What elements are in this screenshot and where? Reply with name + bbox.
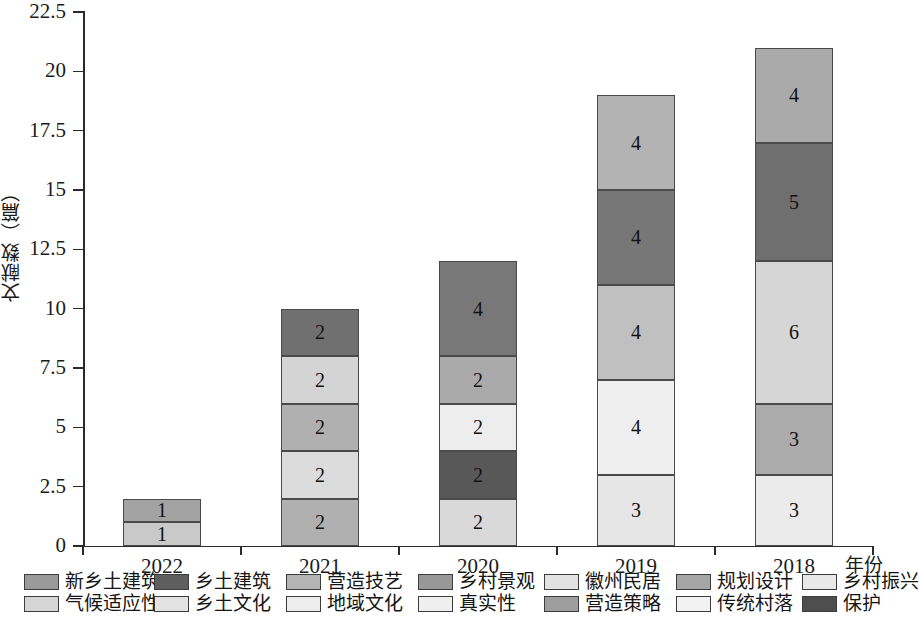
bar-stack-2019[interactable]: 34444 [597,12,675,546]
legend-label: 新乡土建筑 [65,572,160,591]
legend-label: 真实性 [459,594,516,613]
y-axis-tick-label: 12.5 [0,238,66,259]
bar-segment[interactable]: 1 [123,522,201,546]
y-axis-tick-label: 20 [0,60,66,81]
bar-segment[interactable]: 2 [439,356,517,403]
bar-segment-value-label: 2 [473,370,483,390]
y-axis-tick-mark [73,367,83,368]
legend-swatch [802,574,837,590]
legend-item-地域文化[interactable]: 地域文化 [286,593,403,614]
legend-label: 保护 [843,594,881,613]
bar-segment[interactable]: 5 [755,143,833,262]
legend-item-营造技艺[interactable]: 营造技艺 [286,571,403,592]
legend-item-乡土文化[interactable]: 乡土文化 [154,593,271,614]
legend-swatch [418,596,453,612]
bar-segment[interactable]: 4 [597,380,675,475]
bar-segment-value-label: 4 [473,299,483,319]
bar-segment-value-label: 2 [315,370,325,390]
bar-segment-value-label: 3 [789,500,799,520]
y-axis-tick-label: 10 [0,298,66,319]
x-axis-tick-mark [714,546,715,555]
bar-segment-value-label: 2 [473,465,483,485]
legend-item-徽州民居[interactable]: 徽州民居 [544,571,661,592]
y-axis-tick-mark [73,427,83,428]
legend-swatch [802,596,837,612]
x-axis-tick-mark [240,546,241,555]
legend-label: 乡村景观 [459,572,535,591]
legend-row: 新乡土建筑乡土建筑营造技艺乡村景观徽州民居规划设计乡村振兴 [24,571,894,592]
chart-legend: 新乡土建筑乡土建筑营造技艺乡村景观徽州民居规划设计乡村振兴气候适应性乡土文化地域… [24,571,894,615]
bar-segment[interactable]: 2 [281,451,359,498]
bar-segment[interactable]: 4 [597,190,675,285]
y-axis-tick-mark [73,308,83,309]
legend-label: 规划设计 [717,572,793,591]
legend-label: 传统村落 [717,594,793,613]
bar-segment[interactable]: 2 [281,499,359,546]
bar-stack-2018[interactable]: 33654 [755,12,833,546]
legend-swatch [544,574,579,590]
bar-segment-value-label: 2 [315,417,325,437]
x-axis-tick-mark [872,546,873,555]
bar-segment[interactable]: 4 [439,261,517,356]
legend-item-乡土建筑[interactable]: 乡土建筑 [154,571,271,592]
bar-segment-value-label: 5 [789,192,799,212]
legend-item-新乡土建筑[interactable]: 新乡土建筑 [24,571,160,592]
legend-label: 徽州民居 [585,572,661,591]
legend-label: 营造技艺 [327,572,403,591]
x-axis-tick-mark [398,546,399,555]
legend-item-气候适应性[interactable]: 气候适应性 [24,593,160,614]
y-axis-tick-mark [73,130,83,131]
bar-segment-value-label: 1 [157,500,167,520]
bar-segment[interactable]: 3 [755,475,833,546]
bar-segment-value-label: 2 [315,512,325,532]
bar-segment-value-label: 3 [789,429,799,449]
bar-segment-value-label: 2 [315,322,325,342]
legend-label: 乡土文化 [195,594,271,613]
legend-item-保护[interactable]: 保护 [802,593,881,614]
legend-swatch [154,574,189,590]
legend-item-营造策略[interactable]: 营造策略 [544,593,661,614]
legend-label: 乡土建筑 [195,572,271,591]
y-axis-tick-label: 0 [0,535,66,556]
bar-segment[interactable]: 4 [597,285,675,380]
y-axis-tick-mark [73,189,83,190]
bar-segment[interactable]: 3 [755,404,833,475]
bar-segment[interactable]: 2 [439,499,517,546]
bar-segment-value-label: 4 [631,322,641,342]
bar-segment[interactable]: 6 [755,261,833,403]
legend-swatch [544,596,579,612]
bar-segment-value-label: 4 [631,417,641,437]
legend-item-乡村振兴[interactable]: 乡村振兴 [802,571,919,592]
bar-segment[interactable]: 4 [597,95,675,190]
legend-item-真实性[interactable]: 真实性 [418,593,516,614]
y-axis-tick-label: 22.5 [0,1,66,22]
bar-segment[interactable]: 2 [281,309,359,356]
bar-stack-2020[interactable]: 22224 [439,12,517,546]
legend-swatch [24,596,59,612]
bar-segment[interactable]: 2 [281,356,359,403]
legend-label: 营造策略 [585,594,661,613]
bar-segment-value-label: 4 [789,85,799,105]
legend-item-传统村落[interactable]: 传统村落 [676,593,793,614]
legend-swatch [676,574,711,590]
bar-segment[interactable]: 1 [123,499,201,523]
bar-segment-value-label: 6 [789,322,799,342]
legend-item-规划设计[interactable]: 规划设计 [676,571,793,592]
legend-swatch [676,596,711,612]
bar-stack-2021[interactable]: 22222 [281,12,359,546]
legend-swatch [286,574,321,590]
bar-segment[interactable]: 2 [281,404,359,451]
x-axis-tick-mark [556,546,557,555]
legend-swatch [154,596,189,612]
bar-segment[interactable]: 4 [755,48,833,143]
legend-label: 地域文化 [327,594,403,613]
legend-item-乡村景观[interactable]: 乡村景观 [418,571,535,592]
legend-label: 乡村振兴 [843,572,919,591]
bar-stack-2022[interactable]: 11 [123,12,201,546]
y-axis-tick-mark [73,11,83,12]
bar-segment[interactable]: 2 [439,451,517,498]
bar-segment[interactable]: 2 [439,404,517,451]
bar-segment[interactable]: 3 [597,475,675,546]
y-axis-tick-label: 2.5 [0,476,66,497]
